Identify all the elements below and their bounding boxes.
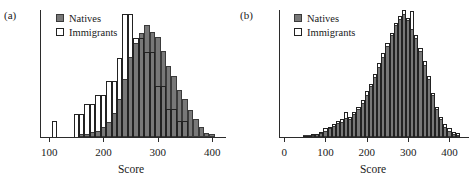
x-tick-label: 200	[95, 146, 112, 158]
x-tick-label: 400	[204, 146, 221, 158]
figure-two-histograms: (a) Natives Immigrants 100200300400 Scor…	[0, 0, 475, 186]
x-tick	[158, 138, 159, 142]
x-tick	[325, 138, 326, 142]
panel-b-label: (b)	[240, 9, 253, 21]
panel-a: (a) Natives Immigrants 100200300400 Scor…	[0, 0, 237, 186]
x-tick-label: 100	[41, 146, 58, 158]
bar-immigrants	[52, 121, 57, 138]
x-tick-label: 400	[441, 146, 458, 158]
panel-a-bars	[41, 10, 223, 137]
panel-b: (b) Natives Immigrants 0100200300400 Sco…	[237, 0, 474, 186]
x-tick	[103, 138, 104, 142]
x-tick-label: 100	[317, 146, 334, 158]
panel-a-plot-area: 100200300400	[40, 10, 222, 138]
x-tick	[367, 138, 368, 142]
x-tick-label: 300	[400, 146, 417, 158]
x-tick	[449, 138, 450, 142]
x-tick-label: 200	[359, 146, 376, 158]
panel-b-x-axis-title: Score	[360, 163, 386, 175]
bar-immigrants	[182, 121, 187, 138]
panel-a-x-axis	[40, 137, 226, 138]
x-tick	[49, 138, 50, 142]
panel-a-x-axis-title: Score	[118, 163, 144, 175]
x-tick	[408, 138, 409, 142]
x-tick	[284, 138, 285, 142]
panel-b-plot-area: 0100200300400	[279, 10, 465, 138]
x-tick	[212, 138, 213, 142]
x-tick-label: 0	[281, 146, 287, 158]
panel-a-label: (a)	[4, 9, 16, 21]
x-tick-label: 300	[150, 146, 167, 158]
bar-natives	[209, 134, 214, 137]
panel-b-bars	[280, 10, 466, 137]
panel-b-x-axis	[279, 137, 469, 138]
bar-immigrants	[456, 133, 460, 137]
